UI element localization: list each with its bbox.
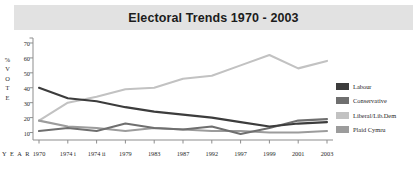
x-tick-label: 1979 [119, 150, 132, 157]
x-tick-label: 1999 [263, 150, 276, 157]
y-axis-tick-labels: 10203040506070 [14, 38, 30, 142]
x-tick-label: 1970 [33, 150, 46, 157]
x-tick-label: 2001 [292, 150, 305, 157]
legend-item[interactable]: Labour [336, 79, 411, 93]
x-tick-label: 1992 [206, 150, 219, 157]
y-axis-caption-char-4: E [6, 94, 10, 101]
y-tick-label: 50 [24, 69, 30, 76]
series-line-plaid-cymru [39, 121, 327, 133]
y-axis-caption-char-3: T [6, 84, 10, 91]
legend-swatch-icon [336, 83, 349, 90]
legend-item[interactable]: Conservative [336, 94, 411, 108]
y-tick-label: 20 [24, 114, 30, 121]
line-chart-svg [33, 40, 333, 140]
legend-item[interactable]: Plaid Cymru [336, 123, 411, 137]
legend-label: Labour [353, 83, 371, 90]
y-tick-label: 30 [24, 99, 30, 106]
legend-label: Liberal/Lib.Dem [353, 112, 396, 119]
y-tick-label: 70 [24, 39, 30, 46]
plot-area [33, 40, 333, 140]
legend-swatch-icon [336, 97, 349, 104]
series-line-liberal-lib-dem [39, 55, 327, 121]
legend-item[interactable]: Liberal/Lib.Dem [336, 108, 411, 122]
y-tick-label: 60 [24, 54, 30, 61]
y-tick-label: 10 [24, 129, 30, 136]
x-tick-label: 1974 i [60, 150, 76, 157]
x-tick-label: 1983 [148, 150, 161, 157]
x-axis-tick-labels: 19701974 i1974 ii19791983198719921997199… [33, 150, 333, 162]
chart-figure: Electoral Trends 1970 - 2003 %VOTE 10203… [0, 0, 413, 174]
legend-swatch-icon [336, 126, 349, 133]
y-axis-caption-char-2: O [5, 75, 10, 82]
x-tick-label: 1997 [234, 150, 247, 157]
y-tick-label: 40 [24, 84, 30, 91]
legend-label: Conservative [353, 97, 387, 104]
chart-legend: LabourConservativeLiberal/Lib.DemPlaid C… [336, 79, 411, 137]
series-line-labour [39, 88, 327, 127]
y-axis-caption: %VOTE [2, 56, 13, 101]
x-tick-label: 1987 [177, 150, 190, 157]
page-title: Electoral Trends 1970 - 2003 [128, 11, 298, 25]
y-axis-caption-char-0: % [5, 56, 10, 63]
x-tick-label: 1974 ii [88, 150, 106, 157]
chart-title-band: Electoral Trends 1970 - 2003 [14, 5, 413, 30]
legend-swatch-icon [336, 112, 349, 119]
legend-label: Plaid Cymru [353, 126, 386, 133]
x-axis-caption: Y E A R [2, 150, 31, 157]
y-axis-caption-char-1: V [5, 65, 10, 72]
x-tick-label: 2003 [321, 150, 334, 157]
